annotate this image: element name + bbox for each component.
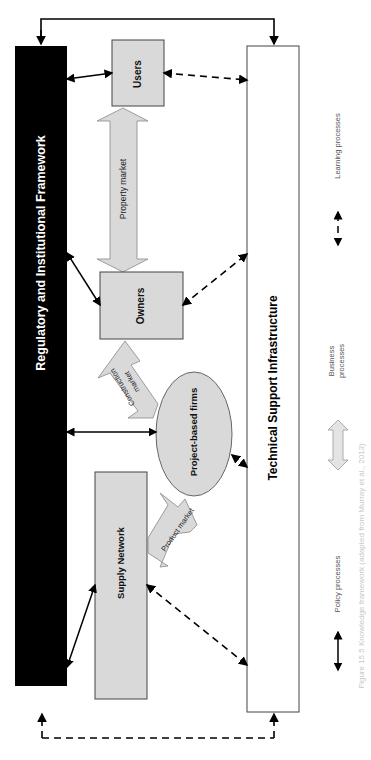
technical-support-label: Technical Support Infrastructure [263,238,283,538]
policy-link-owners [67,253,100,305]
legend-business-arrow [328,420,348,470]
diagram-canvas [0,0,371,760]
property-market-label: Property market [116,139,130,239]
legend-business-label-line2: processes [337,336,347,386]
learning-link-owners [183,254,247,305]
project-based-firms-label: Project-based firms [186,382,202,482]
learning-link-project-firms [232,455,247,467]
policy-link-supply [67,585,95,667]
owners-label: Owners [134,266,148,346]
supply-network-label: Supply Network [113,513,129,613]
figure-caption: Figure 15.5 Knowledge framework (adapted… [356,366,368,760]
legend-learning-label: Learning processes [332,106,344,186]
legend-business-label-line1: Business [327,336,337,386]
policy-link-users [67,73,112,79]
learning-connector-bottom [42,714,274,738]
learning-link-supply [147,585,247,665]
legend-policy-label: Policy processes [332,544,344,624]
learning-link-users [164,73,247,80]
legend-business-label: Business processes [327,336,349,386]
users-label: Users [130,34,146,114]
regulatory-framework-label: Regulatory and Institutional Framework [31,103,51,403]
